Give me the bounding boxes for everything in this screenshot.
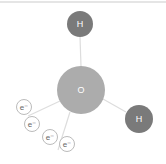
electron-label: e⁻ [20,103,28,112]
water-molecule-diagram: H O H e⁻ e⁻ e⁻ e⁻ [0,0,166,164]
atom-hydrogen-right: H [125,105,153,133]
lone-pair-line-1 [28,101,60,116]
electron: e⁻ [25,117,40,132]
atom-label: O [77,85,84,95]
electron-label: e⁻ [28,120,36,129]
electron-label: e⁻ [46,133,54,142]
electron: e⁻ [43,130,58,145]
bond-o-h2 [103,99,126,112]
electron: e⁻ [60,137,75,152]
atom-label: H [77,19,84,29]
atom-oxygen: O [57,66,105,114]
electron: e⁻ [17,100,32,115]
electron-label: e⁻ [63,140,71,149]
atom-label: H [136,114,143,124]
atom-hydrogen-top: H [67,11,93,37]
bond-o-h1 [80,37,81,66]
